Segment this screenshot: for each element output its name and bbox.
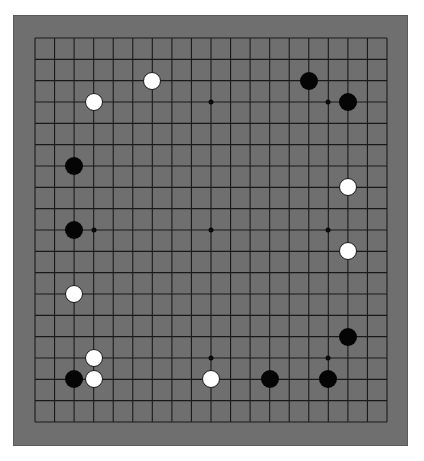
white-stone [65,285,83,303]
star-point [209,100,214,105]
black-stone [339,93,357,111]
star-point [326,356,331,361]
black-stone [261,370,279,388]
black-stone [65,370,83,388]
white-stone [202,370,220,388]
star-point [91,228,96,233]
black-stone [319,370,337,388]
star-point [326,100,331,105]
star-point [209,228,214,233]
black-stone [65,157,83,175]
white-stone [143,72,161,90]
star-point [209,356,214,361]
star-point [326,228,331,233]
white-stone [339,178,357,196]
white-stone [85,93,103,111]
black-stone [339,328,357,346]
black-stone [300,72,318,90]
white-stone [85,349,103,367]
white-stone [339,242,357,260]
white-stone [85,370,103,388]
black-stone [65,221,83,239]
